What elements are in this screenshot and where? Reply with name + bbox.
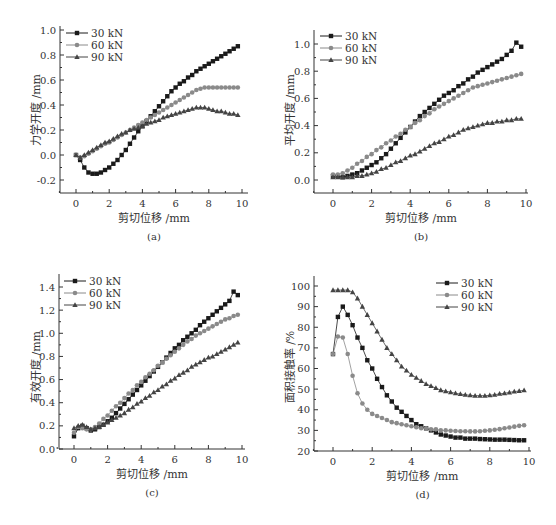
legend-label: 60 kN: [345, 42, 377, 54]
data-point-marker: [82, 152, 87, 157]
data-point-marker: [107, 138, 112, 143]
data-point-marker: [398, 131, 403, 136]
data-point-marker: [422, 114, 427, 119]
data-point-marker: [519, 45, 523, 49]
data-point-marker: [169, 103, 174, 108]
data-point-marker: [365, 358, 369, 362]
data-point-marker: [497, 427, 502, 432]
y-tick-label: -0.2: [37, 175, 56, 186]
data-point-marker: [181, 343, 186, 348]
data-point-marker: [95, 172, 99, 176]
data-point-marker: [514, 73, 519, 78]
data-point-marker: [493, 437, 497, 441]
legend-label: 30 kN: [345, 30, 377, 42]
y-tick-label: 1.0: [40, 25, 56, 36]
data-point-marker: [227, 49, 231, 53]
data-point-marker: [497, 437, 501, 441]
data-point-marker: [126, 397, 130, 401]
data-point-marker: [118, 406, 122, 410]
data-point-marker: [231, 85, 236, 90]
data-point-marker: [215, 85, 220, 90]
panel-caption: (d): [415, 489, 429, 500]
data-point-marker: [424, 426, 429, 431]
data-point-marker: [500, 57, 504, 61]
data-point-marker: [442, 93, 446, 97]
data-point-marker: [346, 313, 350, 317]
legend-marker: [445, 293, 450, 298]
x-tick-label: 0: [330, 198, 336, 209]
data-point-marker: [485, 65, 489, 69]
data-point-marker: [161, 99, 165, 103]
data-point-marker: [168, 353, 173, 358]
legend-label: 30 kN: [461, 277, 493, 289]
data-point-marker: [126, 391, 131, 396]
legend-label: 90 kN: [461, 301, 493, 313]
legend: 30 kN60 kN90 kN: [320, 30, 377, 66]
data-point-marker: [111, 136, 116, 141]
legend-label: 60 kN: [91, 39, 123, 51]
data-point-marker: [105, 413, 110, 418]
legend-marker: [329, 34, 333, 38]
data-point-marker: [219, 54, 223, 58]
data-point-marker: [186, 75, 190, 79]
x-tick-label: 6: [446, 198, 452, 209]
y-tick-label: 50: [297, 384, 310, 395]
data-point-marker: [385, 393, 389, 397]
data-point-marker: [131, 392, 135, 396]
data-point-marker: [490, 80, 495, 85]
data-point-marker: [122, 396, 127, 401]
data-point-marker: [488, 437, 492, 441]
y-tick-label: 40: [297, 404, 310, 415]
y-tick-label: 0.0: [40, 150, 56, 161]
data-point-marker: [236, 293, 240, 297]
data-point-marker: [370, 366, 374, 370]
data-point-marker: [215, 322, 220, 327]
data-point-marker: [90, 147, 95, 152]
data-point-marker: [409, 418, 413, 422]
data-point-marker: [181, 338, 185, 342]
data-point-marker: [164, 356, 169, 361]
chart-a-svg: 0246810-0.20.00.20.40.60.81.0剪切位移 /mm力学开…: [0, 0, 278, 262]
x-tick-label: 8: [487, 456, 493, 467]
y-tick-label: 0.0: [39, 444, 55, 455]
data-point-marker: [235, 340, 240, 345]
data-point-marker: [447, 91, 451, 95]
x-tick-label: 6: [172, 454, 178, 465]
data-point-marker: [488, 428, 493, 433]
data-point-marker: [219, 108, 224, 113]
legend-marker: [75, 31, 79, 35]
data-point-marker: [375, 377, 379, 381]
x-tick-label: 2: [368, 198, 374, 209]
y-axis-label: 力学开度 /mm: [29, 73, 43, 146]
data-point-marker: [517, 438, 521, 442]
data-point-marker: [365, 312, 370, 317]
data-point-marker: [360, 168, 364, 172]
data-point-marker: [456, 93, 461, 98]
data-point-marker: [451, 132, 456, 137]
data-point-marker: [135, 388, 139, 392]
data-point-marker: [101, 417, 106, 422]
data-point-marker: [439, 432, 443, 436]
data-point-marker: [215, 57, 219, 61]
data-point-marker: [223, 85, 228, 90]
data-point-marker: [72, 431, 77, 436]
data-point-marker: [350, 323, 354, 327]
data-point-marker: [473, 429, 478, 434]
data-point-marker: [522, 438, 526, 442]
data-point-marker: [110, 409, 115, 414]
data-point-marker: [202, 320, 206, 324]
data-point-marker: [190, 73, 194, 77]
data-point-marker: [82, 165, 86, 169]
y-tick-label: 0.2: [39, 420, 55, 431]
data-point-marker: [429, 427, 434, 432]
y-tick-label: 100: [291, 281, 310, 292]
data-point-marker: [198, 86, 203, 91]
y-tick-label: 80: [297, 322, 310, 333]
data-point-marker: [370, 412, 375, 417]
data-point-marker: [417, 149, 422, 154]
data-point-marker: [198, 331, 203, 336]
data-point-marker: [98, 142, 103, 147]
data-point-marker: [202, 64, 206, 68]
series-60-kn: [331, 334, 527, 433]
data-point-marker: [231, 111, 236, 116]
